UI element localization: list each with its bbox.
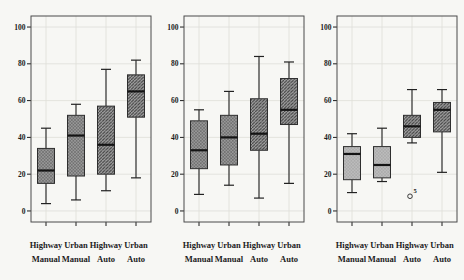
iqr-box [38,148,55,183]
boxplot-svg-3: 020406080100HighwayManualUrbanManualHigh… [309,0,461,276]
category-label-transmission: Manual [32,254,61,264]
category-label-transmission: Manual [185,254,214,264]
y-axis-tick-label: 60 [324,96,332,105]
iqr-box [68,115,85,176]
y-axis-tick-label: 20 [18,170,26,179]
y-axis-tick-label: 60 [18,96,26,105]
category-label-transmission: Manual [368,254,397,264]
y-axis-tick-label: 40 [324,133,332,142]
iqr-box [251,99,268,150]
category-label-transmission: Auto [97,254,115,264]
boxplot-panel-1: 020406080100HighwayManualUrbanManualHigh… [3,0,155,280]
y-axis-tick-label: 100 [14,23,26,32]
category-label-transmission: Auto [280,254,298,264]
y-axis-tick-label: 100 [320,23,332,32]
y-axis-tick-label: 40 [18,133,26,142]
plot-area [31,16,151,222]
category-label-road: Highway [30,240,63,250]
y-axis-tick-label: 0 [328,207,332,216]
boxplot-panel-3: 020406080100HighwayManualUrbanManualHigh… [309,0,461,280]
y-axis-tick-label: 80 [18,59,26,68]
category-label-road: Highway [90,240,123,250]
boxplot-panel-2: 020406080100HighwayManualUrbanManualHigh… [156,0,308,280]
category-label-road: Urban [217,240,241,250]
y-axis-tick-label: 80 [324,59,332,68]
category-label-road: Highway [243,240,276,250]
category-label-transmission: Auto [127,254,145,264]
category-label-road: Highway [336,240,369,250]
iqr-box [128,75,145,117]
iqr-box [281,79,298,125]
iqr-box [98,106,115,174]
category-label-road: Urban [430,240,454,250]
y-axis-tick-label: 60 [171,96,179,105]
category-label-transmission: Auto [433,254,451,264]
y-axis-tick-label: 40 [171,133,179,142]
iqr-box [221,115,238,165]
category-label-road: Urban [370,240,394,250]
iqr-box [434,102,451,131]
y-axis-tick-label: 0 [175,207,179,216]
category-label-road: Urban [124,240,148,250]
category-label-road: Highway [396,240,429,250]
category-label-transmission: Auto [250,254,268,264]
category-label-road: Highway [183,240,216,250]
y-axis-tick-label: 20 [171,170,179,179]
y-axis-tick-label: 0 [22,207,26,216]
iqr-box [374,147,391,178]
y-axis-tick-label: 20 [324,170,332,179]
boxplot-svg-2: 020406080100HighwayManualUrbanManualHigh… [156,0,308,276]
iqr-box [344,147,361,180]
boxplot-figure: 020406080100HighwayManualUrbanManualHigh… [0,0,464,280]
category-label-transmission: Manual [215,254,244,264]
category-label-transmission: Manual [62,254,91,264]
iqr-box [191,121,208,169]
category-label-road: Urban [277,240,301,250]
y-axis-tick-label: 80 [171,59,179,68]
category-label-road: Urban [64,240,88,250]
y-axis-tick-label: 100 [167,23,179,32]
boxplot-svg-1: 020406080100HighwayManualUrbanManualHigh… [3,0,155,276]
category-label-transmission: Manual [338,254,367,264]
category-label-transmission: Auto [403,254,421,264]
